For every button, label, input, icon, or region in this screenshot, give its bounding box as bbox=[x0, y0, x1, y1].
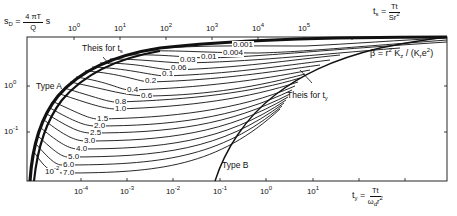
sd-tail: s bbox=[46, 16, 51, 26]
tick-exp: 3 bbox=[215, 22, 218, 28]
xlabel-ts: ts = Tt Sr2 bbox=[373, 3, 400, 21]
curve-label: 0.01 bbox=[200, 53, 218, 61]
bottom-tick-label: 10-4 bbox=[74, 188, 88, 196]
top-tick-label: 103 bbox=[206, 25, 218, 33]
y-tick-label: 10-1 bbox=[4, 128, 18, 136]
tick-base: 10 bbox=[260, 187, 269, 196]
theis-ts-text: Theis for t bbox=[82, 43, 120, 53]
tick-base: 10 bbox=[298, 24, 307, 33]
ts-denominator: Sr2 bbox=[389, 13, 400, 22]
curve-label: 7.0 bbox=[62, 169, 75, 177]
curve-label: 1.0 bbox=[114, 105, 127, 113]
beta-curve-family bbox=[34, 38, 447, 173]
ty-den-sup: 2 bbox=[380, 195, 383, 201]
top-tick-label: 101 bbox=[114, 25, 126, 33]
theis-ty-sub: y bbox=[325, 95, 328, 101]
type-b-label: Type B bbox=[222, 161, 248, 170]
tick-base: 10 bbox=[160, 24, 169, 33]
sd-denominator: Q bbox=[30, 23, 36, 32]
type-a-label: Type A bbox=[36, 82, 62, 91]
curve-label: 0.6 bbox=[140, 92, 153, 100]
beta-close: ) bbox=[430, 48, 433, 58]
tick-exp: -2 bbox=[54, 165, 59, 171]
tick-exp: 0 bbox=[13, 79, 16, 85]
ty-subscript: y bbox=[355, 195, 358, 201]
y-tick-label: 10-2 bbox=[44, 168, 60, 176]
tick-base: 10 bbox=[4, 81, 13, 90]
tick-base: 10 bbox=[120, 187, 129, 196]
tick-exp: -4 bbox=[83, 185, 88, 191]
tick-exp: -2 bbox=[175, 185, 180, 191]
curve-label: 0.2 bbox=[144, 77, 157, 85]
beta-definition: β = r2 Kz / (Kre2) bbox=[370, 49, 433, 58]
sd-equals: = bbox=[15, 16, 20, 26]
tick-base: 10 bbox=[74, 187, 83, 196]
tick-base: 10 bbox=[4, 127, 13, 136]
tick-base: 10 bbox=[166, 187, 175, 196]
bottom-tick-label: 10-3 bbox=[120, 188, 134, 196]
curve-label: 0.1 bbox=[161, 70, 174, 78]
bottom-tick-label: 10-1 bbox=[213, 188, 227, 196]
theis-ts-sub: s bbox=[120, 48, 123, 54]
tick-exp: -3 bbox=[129, 185, 134, 191]
ts-subscript: s bbox=[376, 11, 379, 17]
ty-denominator: ωdr2 bbox=[368, 197, 383, 206]
ty-fraction: Tt ωdr2 bbox=[368, 187, 383, 205]
ts-equals: = bbox=[381, 6, 386, 16]
top-tick-label: 100 bbox=[68, 25, 80, 33]
tick-base: 10 bbox=[45, 167, 54, 176]
theis-ty-text: Theis for t bbox=[287, 90, 325, 100]
sd-numerator: 4 πT bbox=[23, 13, 43, 23]
y-tick-label: 100 bbox=[4, 82, 16, 90]
tick-base: 10 bbox=[307, 187, 316, 196]
tick-exp: 1 bbox=[123, 22, 126, 28]
beta-div: / (K bbox=[403, 48, 420, 58]
tick-exp: 4 bbox=[261, 22, 264, 28]
bottom-tick-label: 100 bbox=[260, 188, 272, 196]
tick-exp: 0 bbox=[269, 185, 272, 191]
tick-exp: -1 bbox=[222, 185, 227, 191]
curve-label: 0.004 bbox=[222, 49, 244, 57]
tick-exp: 2 bbox=[169, 22, 172, 28]
sd-fraction: 4 πT Q bbox=[23, 13, 43, 31]
bottom-tick-label: 101 bbox=[307, 188, 319, 196]
curve-label: 0.4 bbox=[126, 86, 139, 94]
xlabel-ty: ty = Tt ωdr2 bbox=[352, 187, 383, 205]
theis-ts-label: Theis for ts bbox=[82, 44, 123, 53]
ts-den-sup: 2 bbox=[396, 11, 399, 17]
ylabel-sd: sD = 4 πT Q s bbox=[4, 13, 50, 31]
theis-ty-curve bbox=[215, 37, 447, 181]
tick-base: 10 bbox=[68, 24, 77, 33]
ty-equals: = bbox=[360, 190, 365, 200]
tick-base: 10 bbox=[114, 24, 123, 33]
tick-exp: 5 bbox=[307, 22, 310, 28]
top-tick-label: 104 bbox=[252, 25, 264, 33]
tick-exp: 0 bbox=[77, 22, 80, 28]
tick-base: 10 bbox=[213, 187, 222, 196]
tick-base: 10 bbox=[252, 24, 261, 33]
theis-ty-label: Theis for ty bbox=[287, 91, 328, 100]
beta-text: β = r bbox=[370, 48, 388, 58]
ts-fraction: Tt Sr2 bbox=[389, 3, 400, 21]
sd-subscript: D bbox=[9, 21, 13, 27]
top-tick-label: 102 bbox=[160, 25, 172, 33]
bottom-tick-label: 10-2 bbox=[166, 188, 180, 196]
tick-exp: -1 bbox=[13, 125, 18, 131]
tick-exp: 1 bbox=[316, 185, 319, 191]
tick-base: 10 bbox=[206, 24, 215, 33]
top-tick-label: 105 bbox=[298, 25, 310, 33]
